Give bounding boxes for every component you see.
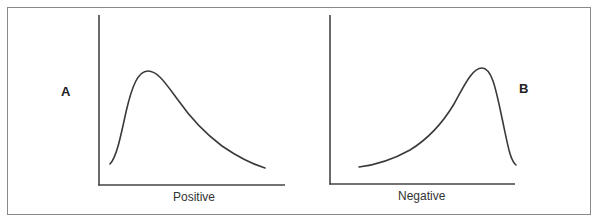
panel-b-axes xyxy=(329,15,515,185)
skewness-diagram xyxy=(0,0,597,220)
panel-a-axis-label: Positive xyxy=(173,190,215,204)
panel-b-curve xyxy=(359,68,516,167)
panel-a-curve xyxy=(110,71,265,168)
panel-a-axes xyxy=(98,15,285,186)
panel-b-axis-label: Negative xyxy=(398,189,445,203)
panel-a-label: A xyxy=(61,84,70,99)
panel-b-label: B xyxy=(519,81,528,96)
